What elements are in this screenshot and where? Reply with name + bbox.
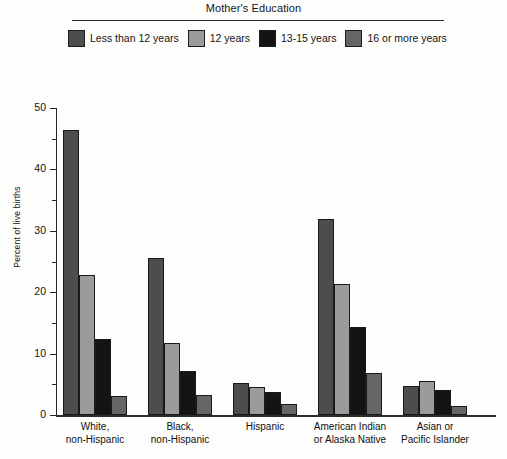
bar[interactable] bbox=[111, 396, 127, 415]
bar-group bbox=[403, 108, 467, 415]
bar[interactable] bbox=[265, 392, 281, 415]
bar[interactable] bbox=[281, 404, 297, 415]
y-tick-label: 0 bbox=[6, 408, 46, 420]
legend-item-label: 16 or more years bbox=[367, 32, 446, 44]
bar-group bbox=[318, 108, 382, 415]
legend-swatch-icon bbox=[68, 30, 85, 47]
y-tick-label: 50 bbox=[6, 101, 46, 113]
bar-group bbox=[148, 108, 212, 415]
legend-item[interactable]: 12 years bbox=[188, 30, 250, 47]
y-tick-label: 10 bbox=[6, 347, 46, 359]
chart-title: Mother's Education bbox=[0, 2, 507, 14]
legend-swatch-icon bbox=[188, 30, 205, 47]
legend-divider bbox=[72, 20, 444, 21]
legend-item-label: Less than 12 years bbox=[90, 32, 179, 44]
bar[interactable] bbox=[350, 327, 366, 415]
bar[interactable] bbox=[148, 258, 164, 415]
chart-figure: Mother's Education Less than 12 years12 … bbox=[0, 0, 507, 459]
bar[interactable] bbox=[249, 387, 265, 415]
bar-group bbox=[63, 108, 127, 415]
legend-item[interactable]: 16 or more years bbox=[345, 30, 446, 47]
legend-swatch-icon bbox=[345, 30, 362, 47]
plot-area bbox=[57, 108, 495, 415]
y-tick-label: 20 bbox=[6, 285, 46, 297]
x-axis-label: Asian or Pacific Islander bbox=[385, 421, 485, 446]
y-tick-major bbox=[50, 169, 57, 170]
legend-item-label: 13-15 years bbox=[281, 32, 336, 44]
y-tick-major bbox=[50, 354, 57, 355]
bar-group bbox=[233, 108, 297, 415]
bar[interactable] bbox=[180, 371, 196, 415]
bar[interactable] bbox=[435, 390, 451, 415]
bar[interactable] bbox=[79, 275, 95, 415]
y-tick-major bbox=[50, 231, 57, 232]
bar[interactable] bbox=[63, 130, 79, 416]
legend-item[interactable]: 13-15 years bbox=[259, 30, 336, 47]
legend-swatch-icon bbox=[259, 30, 276, 47]
chart-legend: Less than 12 years12 years13-15 years16 … bbox=[68, 28, 448, 48]
y-tick-label: 30 bbox=[6, 224, 46, 236]
bar[interactable] bbox=[334, 284, 350, 415]
y-tick-major bbox=[50, 292, 57, 293]
bar[interactable] bbox=[366, 373, 382, 415]
y-tick-major bbox=[50, 108, 57, 109]
legend-item-label: 12 years bbox=[210, 32, 250, 44]
bar[interactable] bbox=[164, 343, 180, 415]
bar[interactable] bbox=[318, 219, 334, 415]
y-tick-major bbox=[50, 415, 57, 416]
y-tick-label: 40 bbox=[6, 162, 46, 174]
bar[interactable] bbox=[95, 339, 111, 415]
legend-item[interactable]: Less than 12 years bbox=[68, 30, 179, 47]
x-axis-line bbox=[56, 415, 496, 417]
bar[interactable] bbox=[196, 395, 212, 415]
bar[interactable] bbox=[451, 406, 467, 415]
bar[interactable] bbox=[233, 383, 249, 415]
bar[interactable] bbox=[403, 386, 419, 415]
bar[interactable] bbox=[419, 381, 435, 415]
